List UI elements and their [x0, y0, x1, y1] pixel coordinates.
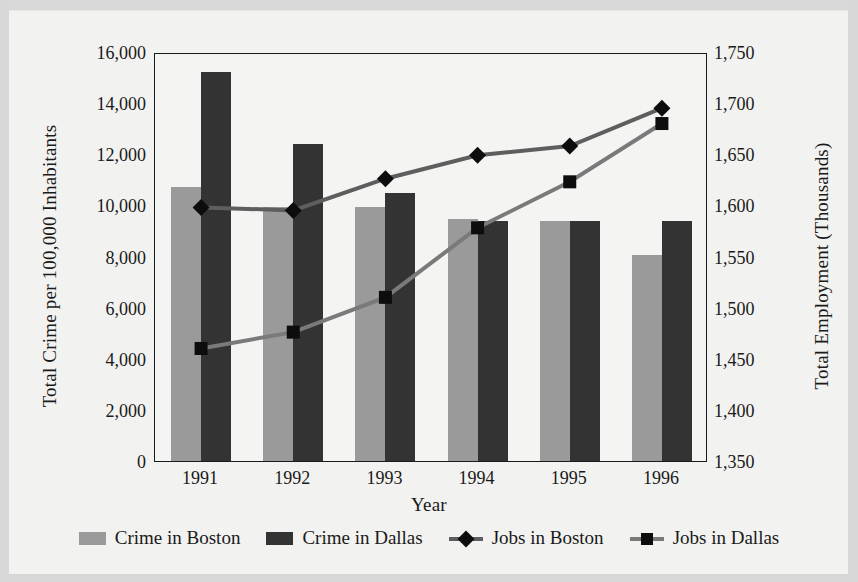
- y-left-tick-label: 6,000: [26, 300, 146, 318]
- y-right-tick-label: 1,600: [714, 197, 834, 215]
- marker-jobs-boston: [285, 202, 302, 219]
- y-right-tick-label: 1,700: [714, 95, 834, 113]
- legend-item: Crime in Dallas: [266, 527, 422, 549]
- x-tick-label: 1992: [247, 468, 337, 489]
- legend-label: Jobs in Boston: [492, 527, 604, 549]
- marker-jobs-boston: [377, 170, 394, 187]
- y-left-tick-label: 16,000: [26, 44, 146, 62]
- marker-jobs-boston: [469, 147, 486, 164]
- y-right-tick-label: 1,350: [714, 453, 834, 471]
- y-right-tick-label: 1,650: [714, 146, 834, 164]
- y-right-tick-label: 1,400: [714, 402, 834, 420]
- y-left-tick-label: 8,000: [26, 249, 146, 267]
- y-left-tick-label: 14,000: [26, 95, 146, 113]
- marker-jobs-dallas: [471, 221, 484, 234]
- legend-swatch-crime-dallas-icon: [266, 532, 293, 545]
- plot-inner: [155, 54, 706, 461]
- chart-figure: Total Crime per 100,000 Inhabitants Tota…: [0, 0, 858, 582]
- x-tick-label: 1995: [524, 468, 614, 489]
- y-right-tick-label: 1,750: [714, 44, 834, 62]
- legend-swatch-jobs-boston-icon: [449, 532, 483, 545]
- line-series-layer: [155, 54, 708, 463]
- x-axis-title: Year: [0, 494, 858, 516]
- x-tick-label: 1991: [155, 468, 245, 489]
- y-left-tick-label: 10,000: [26, 197, 146, 215]
- x-tick-label: 1993: [339, 468, 429, 489]
- y-left-tick-label: 2,000: [26, 402, 146, 420]
- y-right-tick-label: 1,450: [714, 351, 834, 369]
- x-tick-label: 1994: [432, 468, 522, 489]
- legend-swatch-jobs-dallas-icon: [630, 532, 664, 545]
- chart-legend: Crime in BostonCrime in DallasJobs in Bo…: [0, 527, 858, 549]
- marker-jobs-boston: [561, 138, 578, 155]
- marker-jobs-dallas: [563, 175, 576, 188]
- y-right-tick-label: 1,550: [714, 249, 834, 267]
- line-jobs-dallas: [201, 124, 662, 349]
- legend-swatch-crime-boston-icon: [79, 532, 106, 545]
- y-left-tick-label: 0: [26, 453, 146, 471]
- marker-jobs-dallas: [655, 117, 668, 130]
- y-left-tick-label: 4,000: [26, 351, 146, 369]
- marker-jobs-boston: [653, 100, 670, 117]
- legend-item: Jobs in Dallas: [630, 527, 780, 549]
- legend-item: Crime in Boston: [79, 527, 241, 549]
- legend-label: Crime in Boston: [115, 527, 241, 549]
- line-jobs-boston: [201, 108, 662, 210]
- marker-jobs-dallas: [287, 326, 300, 339]
- legend-diamond-marker-icon: [457, 530, 474, 547]
- legend-item: Jobs in Boston: [449, 527, 604, 549]
- legend-label: Jobs in Dallas: [673, 527, 780, 549]
- x-tick-label: 1996: [616, 468, 706, 489]
- plot-area: [154, 53, 707, 462]
- y-right-tick-label: 1,500: [714, 300, 834, 318]
- legend-square-marker-icon: [641, 533, 653, 545]
- marker-jobs-dallas: [195, 342, 208, 355]
- marker-jobs-dallas: [379, 291, 392, 304]
- legend-label: Crime in Dallas: [302, 527, 422, 549]
- y-left-tick-label: 12,000: [26, 146, 146, 164]
- marker-jobs-boston: [193, 199, 210, 216]
